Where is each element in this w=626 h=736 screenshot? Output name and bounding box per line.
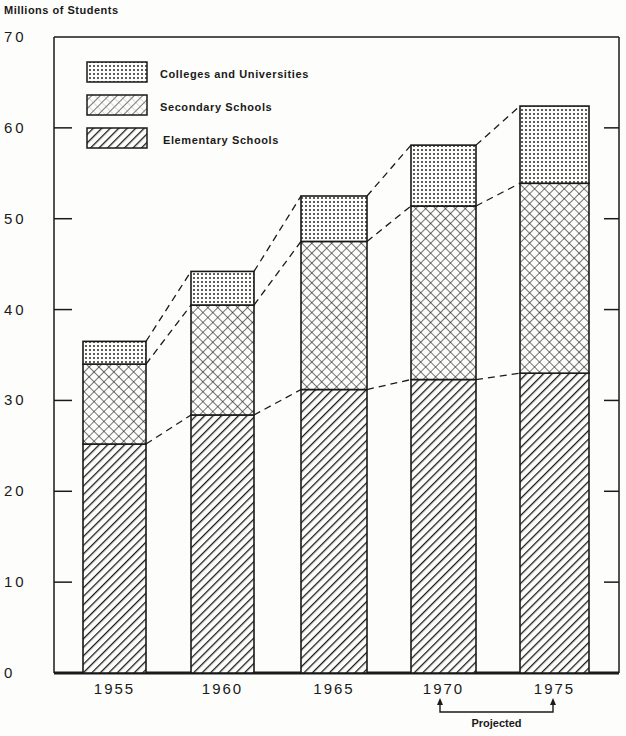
y-tick-label: 60 [4, 119, 27, 136]
bar-segment-colleges-and-universities [191, 271, 254, 305]
x-tick-label: 1975 [534, 680, 575, 697]
bar-1975 [520, 106, 589, 673]
bars [83, 106, 589, 673]
connector-dash [476, 106, 520, 145]
bar-1970 [411, 145, 476, 673]
connector-dash [254, 390, 301, 415]
legend-label: Elementary Schools [163, 134, 279, 146]
legend-swatch [87, 128, 147, 148]
connector-dash [367, 145, 411, 196]
bar-1965 [301, 196, 367, 673]
bar-segment-secondary-schools [520, 183, 589, 373]
bar-segment-secondary-schools [301, 241, 367, 389]
bar-segment-elementary-schools [411, 380, 476, 673]
y-tick-label: 20 [4, 482, 27, 499]
x-tick-label: 1960 [202, 680, 243, 697]
x-tick-label: 1970 [423, 680, 464, 697]
legend-label: Colleges and Universities [160, 68, 309, 80]
bar-segment-colleges-and-universities [520, 106, 589, 183]
connector-dash [146, 271, 191, 341]
bar-segment-colleges-and-universities [83, 341, 146, 364]
x-axis-labels: 19551960196519701975 [94, 680, 575, 697]
legend-swatch [87, 95, 147, 115]
bar-segment-colleges-and-universities [411, 145, 476, 206]
bar-segment-elementary-schools [301, 390, 367, 673]
bar-segment-elementary-schools [83, 444, 146, 673]
projected-label: Projected [471, 717, 521, 729]
projected-annotation: Projected [437, 698, 556, 729]
bar-segment-elementary-schools [191, 415, 254, 673]
y-tick-label: 10 [4, 573, 27, 590]
bar-segment-secondary-schools [411, 206, 476, 380]
bar-1955 [83, 341, 146, 673]
y-tick-label: 30 [4, 391, 27, 408]
y-tick-label: 50 [4, 210, 27, 227]
stacked-bar-chart: 010203040506070 Colleges and Universitie… [0, 0, 626, 736]
bar-1960 [191, 271, 254, 673]
arrow-up-icon [437, 698, 443, 705]
connector-dash [146, 305, 191, 364]
x-tick-label: 1955 [94, 680, 135, 697]
connector-dash [367, 206, 411, 241]
connector-dash [254, 241, 301, 305]
bar-segment-secondary-schools [191, 305, 254, 415]
y-tick-label: 0 [4, 664, 15, 681]
legend-swatch [87, 62, 147, 82]
bar-segment-colleges-and-universities [301, 196, 367, 241]
connector-dash [367, 380, 411, 390]
arrow-up-icon [550, 698, 556, 705]
connector-dash [476, 183, 520, 206]
bar-segment-elementary-schools [520, 373, 589, 673]
x-tick-label: 1965 [313, 680, 354, 697]
connector-dash [476, 373, 520, 379]
legend-label: Secondary Schools [160, 101, 272, 113]
projected-bracket [440, 703, 553, 712]
y-tick-label: 70 [4, 28, 27, 45]
bar-segment-secondary-schools [83, 364, 146, 444]
connector-dash [254, 196, 301, 271]
legend: Colleges and UniversitiesSecondary Schoo… [87, 62, 309, 148]
y-tick-label: 40 [4, 301, 27, 318]
connector-dash [146, 415, 191, 444]
